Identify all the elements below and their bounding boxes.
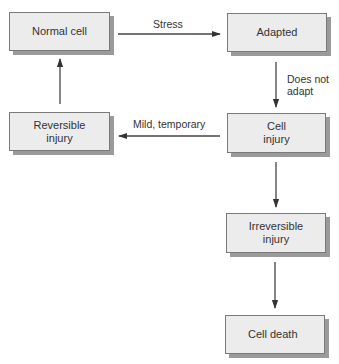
node-adapted: Adapted xyxy=(227,13,327,52)
node-normal-cell: Normal cell xyxy=(9,12,110,51)
node-label: Adapted xyxy=(257,26,298,39)
arrows-layer xyxy=(0,0,339,364)
node-label: Normal cell xyxy=(32,25,87,38)
node-cell-injury: Cell injury xyxy=(227,113,326,153)
edge-label-mild-temporary: Mild, temporary xyxy=(133,118,205,130)
edge-label-stress: Stress xyxy=(153,18,183,30)
node-irreversible-injury: Irreversible injury xyxy=(226,213,326,253)
node-reversible-injury: Reversible injury xyxy=(9,112,110,151)
edge-label-does-not-adapt: Does not adapt xyxy=(287,73,329,97)
node-label: Cell injury xyxy=(263,120,289,146)
node-label: Cell death xyxy=(248,328,298,341)
node-cell-death: Cell death xyxy=(225,315,325,354)
node-label: Irreversible injury xyxy=(249,220,303,246)
node-label: Reversible injury xyxy=(34,119,86,145)
